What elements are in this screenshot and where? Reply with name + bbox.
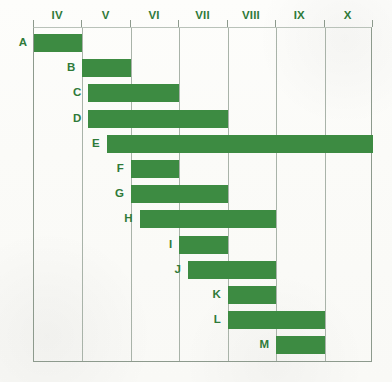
x-tick-mark-V [81,20,82,27]
gantt-bar-D [88,110,227,128]
gantt-bar-B [82,59,130,77]
gantt-bar-L [228,311,325,329]
x-tick-mark-VIII [227,20,228,27]
x-tick-label-X: X [344,9,352,22]
x-tick-label-IV: IV [52,9,63,22]
gantt-bar-F [131,160,179,178]
row-label-G: G [108,187,124,200]
row-label-H: H [117,212,133,225]
x-tick-mark-IX [275,20,276,27]
gantt-bar-A [34,34,82,52]
row-label-B: B [59,61,75,74]
x-tick-label-VI: VI [148,9,159,22]
x-tick-label-VII: VII [195,9,210,22]
gantt-bar-H [140,210,277,228]
row-label-K: K [205,288,221,301]
gantt-bar-K [228,286,276,304]
row-label-E: E [84,136,100,149]
x-tick-label-VIII: VIII [242,9,260,22]
x-tick-mark-X [324,20,325,27]
row-label-C: C [65,86,81,99]
row-label-F: F [108,162,124,175]
row-label-D: D [65,111,81,124]
gantt-chart: IVVVIVIIVIIIIXX ABCDEFGHIJKLM [0,0,392,382]
row-label-J: J [165,262,181,275]
gantt-bar-C [88,84,179,102]
x-tick-mark-IV [33,20,34,27]
gantt-bar-J [188,261,276,279]
row-label-I: I [156,237,172,250]
x-tick-mark-VI [130,20,131,27]
gridline-V [82,28,83,361]
gridline-X [325,28,326,361]
row-label-M: M [253,338,269,351]
x-tick-label-IX: IX [294,9,305,22]
x-tick-label-V: V [102,9,110,22]
x-tick-mark-VII [178,20,179,27]
gantt-bar-G [131,185,228,203]
plot-area [33,27,372,362]
gantt-bar-M [276,336,324,354]
gantt-bar-I [179,236,227,254]
x-tick-mark-end [372,20,373,27]
gantt-bar-E [107,135,373,153]
row-label-L: L [205,313,221,326]
row-label-A: A [11,36,27,49]
